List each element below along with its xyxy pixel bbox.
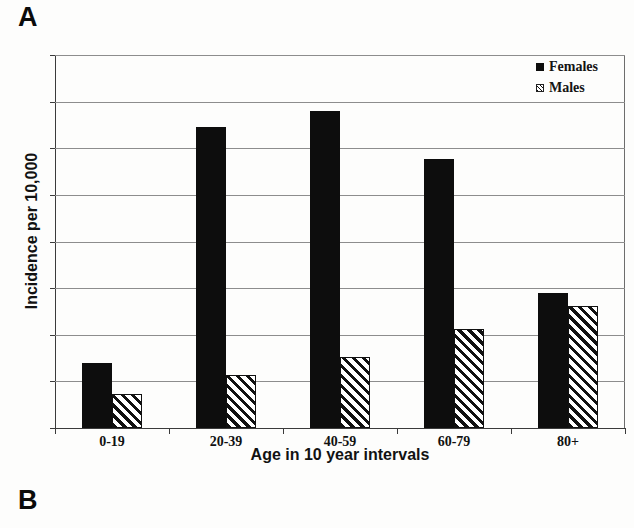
gridline — [55, 102, 625, 103]
bar-females-20-39 — [196, 127, 226, 428]
bar-males-60-79 — [454, 329, 484, 428]
gridline — [55, 55, 625, 56]
bar-males-40-59 — [340, 357, 370, 428]
legend-swatch-females-icon — [536, 63, 544, 71]
y-axis-tick — [50, 148, 55, 149]
bar-chart: 01020304050607080 0-1920-3940-5960-7980+… — [0, 0, 634, 470]
plot-area — [55, 55, 625, 428]
gridline — [55, 148, 625, 149]
bar-females-0-19 — [82, 363, 112, 428]
axis-line-bottom — [55, 428, 625, 429]
x-axis-title: Age in 10 year intervals — [55, 446, 625, 464]
legend-item-males: Males — [536, 78, 598, 97]
bar-males-80+ — [568, 306, 598, 428]
legend-swatch-males-icon — [536, 84, 544, 92]
bar-males-20-39 — [226, 375, 256, 428]
y-axis-tick — [50, 381, 55, 382]
y-axis-title: Incidence per 10,000 — [23, 81, 41, 381]
bar-females-60-79 — [424, 159, 454, 428]
x-axis-tick — [625, 428, 626, 434]
figure-panel-a: A 01020304050607080 0-1920-3940-5960-798… — [0, 0, 634, 528]
y-axis-tick — [50, 55, 55, 56]
y-axis-tick — [50, 335, 55, 336]
bar-males-0-19 — [112, 394, 142, 428]
legend-item-females: Females — [536, 57, 598, 76]
x-axis-tick — [55, 428, 56, 434]
bar-females-80+ — [538, 293, 568, 428]
panel-label-b: B — [18, 487, 37, 514]
y-axis-tick — [50, 288, 55, 289]
y-axis-tick — [50, 242, 55, 243]
legend-label: Females — [549, 59, 598, 75]
y-axis-tick — [50, 102, 55, 103]
chart-legend: FemalesMales — [536, 57, 598, 99]
gridline — [55, 195, 625, 196]
x-axis-tick — [397, 428, 398, 434]
x-axis-tick — [169, 428, 170, 434]
x-axis-tick — [283, 428, 284, 434]
y-axis-tick — [50, 195, 55, 196]
gridline — [55, 288, 625, 289]
bar-females-40-59 — [310, 111, 340, 428]
x-axis-tick — [511, 428, 512, 434]
gridline — [55, 242, 625, 243]
legend-label: Males — [549, 80, 585, 96]
